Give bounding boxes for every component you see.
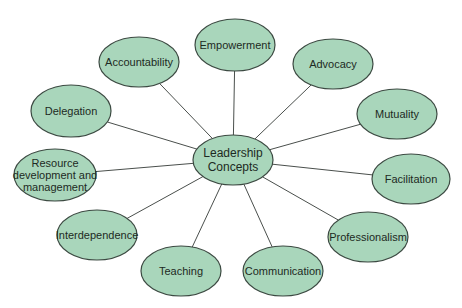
- node-communication: Communication: [243, 246, 323, 296]
- node-delegation: Delegation: [31, 85, 111, 137]
- node-leadership-concepts: LeadershipConcepts: [193, 135, 273, 185]
- node-label: Facilitation: [385, 173, 438, 185]
- edge-facilitation: [272, 164, 372, 175]
- edge-professionalism: [263, 177, 339, 220]
- node-label: Leadership: [203, 146, 263, 160]
- node-label: Communication: [245, 265, 321, 277]
- nodes: EmpowermentAccountabilityAdvocacyDelegat…: [13, 19, 450, 296]
- node-label: Mutuality: [375, 108, 420, 120]
- node-empowerment: Empowerment: [195, 19, 275, 71]
- node-resource-development: Resourcedevelopment andmanagement: [13, 149, 97, 201]
- node-interdependence: Interdependence: [56, 210, 139, 260]
- node-mutuality: Mutuality: [357, 89, 437, 139]
- node-label: Interdependence: [56, 229, 139, 241]
- edge-communication: [244, 184, 272, 247]
- edge-empowerment: [233, 71, 234, 135]
- edge-delegation: [107, 122, 197, 149]
- node-facilitation: Facilitation: [372, 154, 450, 204]
- edge-teaching: [192, 184, 222, 247]
- node-accountability: Accountability: [99, 37, 179, 87]
- edge-interdependence: [127, 177, 203, 219]
- concept-map: EmpowermentAccountabilityAdvocacyDelegat…: [0, 0, 462, 308]
- node-label: Delegation: [45, 105, 98, 117]
- node-label: Empowerment: [200, 39, 271, 51]
- node-label: development and: [13, 169, 97, 181]
- edge-mutuality: [269, 124, 360, 150]
- edge-resource-development: [96, 163, 194, 171]
- node-label: management: [23, 181, 87, 193]
- node-label: Teaching: [159, 265, 203, 277]
- node-label: Accountability: [105, 56, 173, 68]
- node-advocacy: Advocacy: [293, 39, 373, 89]
- edge-advocacy: [255, 85, 311, 139]
- node-label: Resource: [31, 157, 78, 169]
- node-label: Advocacy: [309, 58, 357, 70]
- edge-accountability: [160, 83, 213, 138]
- node-label: Professionalism: [329, 231, 407, 243]
- node-teaching: Teaching: [141, 246, 221, 296]
- node-label: Concepts: [208, 160, 259, 174]
- node-professionalism: Professionalism: [328, 212, 408, 262]
